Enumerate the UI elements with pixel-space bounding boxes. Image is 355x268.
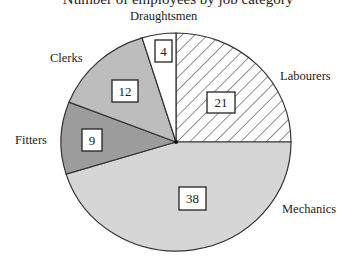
svg-text:38: 38 bbox=[186, 191, 199, 206]
slice-labourers bbox=[176, 33, 291, 142]
label-labourers: Labourers bbox=[280, 69, 331, 83]
label-draughtsmen: Draughtsmen bbox=[130, 9, 198, 23]
value-box-labourers: 21 bbox=[207, 92, 235, 113]
label-clerks: Clerks bbox=[50, 51, 83, 65]
svg-text:9: 9 bbox=[89, 133, 96, 148]
svg-text:12: 12 bbox=[119, 84, 132, 99]
pie-center-dot bbox=[174, 140, 178, 144]
value-box-mechanics: 38 bbox=[179, 187, 206, 210]
chart-title-cutoff: Number of employees by job category bbox=[63, 0, 294, 7]
value-box-clerks: 12 bbox=[112, 80, 138, 102]
label-mechanics: Mechanics bbox=[282, 202, 336, 216]
svg-text:21: 21 bbox=[215, 95, 228, 110]
svg-text:4: 4 bbox=[160, 44, 167, 59]
pie-chart: Number of employees by job category Drau… bbox=[0, 0, 355, 268]
label-fitters: Fitters bbox=[15, 133, 47, 147]
value-box-draughtsmen: 4 bbox=[155, 40, 172, 62]
value-box-fitters: 9 bbox=[82, 129, 102, 151]
